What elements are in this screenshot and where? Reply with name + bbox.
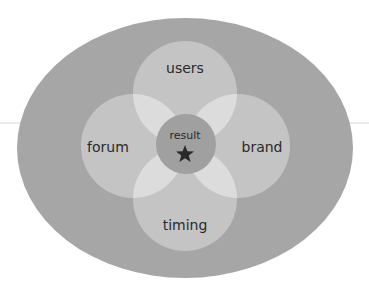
venn-diagram: users forum brand timing result <box>0 0 369 290</box>
label-timing: timing <box>163 217 208 233</box>
center-circle <box>156 114 216 174</box>
label-forum: forum <box>87 139 129 155</box>
label-brand: brand <box>242 139 283 155</box>
label-users: users <box>166 60 204 76</box>
label-result: result <box>169 129 201 142</box>
